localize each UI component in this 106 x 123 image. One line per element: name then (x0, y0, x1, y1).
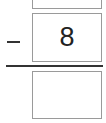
answer-box[interactable] (32, 71, 102, 119)
subtrahend-value: 8 (59, 24, 74, 51)
sum-line-divider (6, 65, 103, 67)
top-number-box[interactable] (32, 0, 102, 9)
subtrahend-box: 8 (32, 13, 102, 62)
minus-sign-icon (7, 41, 20, 43)
